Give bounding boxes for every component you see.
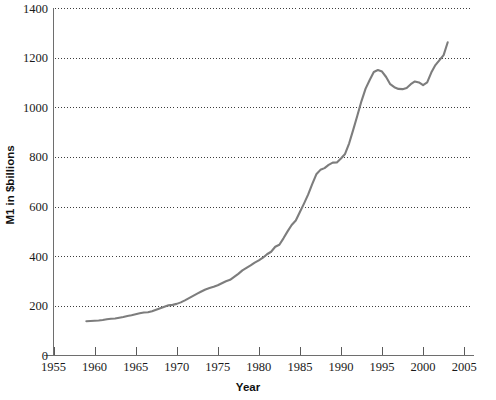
x-tick-label-2000: 2000 <box>411 360 436 374</box>
x-tick-label-2005: 2005 <box>452 360 477 374</box>
y-tick-label-1000: 1000 <box>23 101 48 115</box>
x-tick-label-1960: 1960 <box>82 360 107 374</box>
x-tick-marks-group <box>55 347 465 355</box>
x-tick-label-1985: 1985 <box>287 360 312 374</box>
x-axis-title: Year <box>236 381 261 393</box>
x-tick-label-1990: 1990 <box>328 360 353 374</box>
y-tick-label-200: 200 <box>29 299 48 313</box>
y-axis-title: M1 in $billions <box>4 145 16 224</box>
axes-group <box>44 8 474 356</box>
x-tick-label-1965: 1965 <box>123 360 148 374</box>
y-tick-label-800: 800 <box>29 150 48 164</box>
y-tick-labels-group: 0200400600800100012001400 <box>23 2 48 364</box>
y-tick-label-600: 600 <box>29 200 48 214</box>
y-tick-label-400: 400 <box>29 250 48 264</box>
data-series-group <box>86 42 447 321</box>
x-tick-label-1970: 1970 <box>164 360 189 374</box>
x-tick-label-1980: 1980 <box>246 360 271 374</box>
x-tick-labels-group: 1955196019651970197519801985199019952000… <box>41 360 477 374</box>
m1-series-line <box>86 42 447 321</box>
y-tick-label-1200: 1200 <box>23 51 48 65</box>
line-chart: 1955196019651970197519801985199019952000… <box>0 0 496 400</box>
gridlines-group <box>55 9 473 307</box>
y-tick-label-1400: 1400 <box>23 2 48 16</box>
y-tick-label-0: 0 <box>42 349 48 363</box>
x-tick-label-1975: 1975 <box>205 360 230 374</box>
chart-container: 1955196019651970197519801985199019952000… <box>0 0 496 400</box>
x-tick-label-1995: 1995 <box>370 360 395 374</box>
